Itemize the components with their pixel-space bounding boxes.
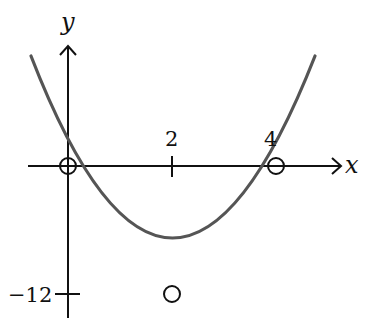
x-tick-label-4: 4 [264,127,277,151]
marker-vertex [164,286,180,302]
x-tick-label-2: 2 [165,127,178,151]
x-axis-label: x [345,151,359,179]
axes [28,46,341,318]
parabola-graph: y x 2 4 −12 [0,0,367,323]
y-axis-label: y [60,8,75,36]
y-tick-label-neg12: −12 [8,283,52,307]
